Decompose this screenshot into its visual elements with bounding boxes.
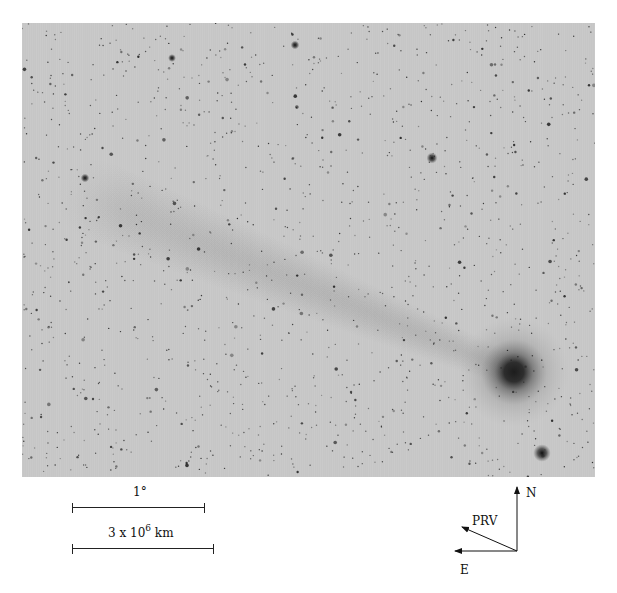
compass-prv-label: PRV: [472, 514, 497, 528]
scale-bar-tick-right: [204, 503, 205, 513]
distance-scale-prefix: 3 x 10: [108, 526, 145, 540]
angular-scale-bar: [72, 503, 205, 513]
compass-arrows-icon: [440, 480, 560, 590]
distance-scale-bar: [72, 544, 214, 554]
distance-scale-label: 3 x 106 km: [108, 526, 174, 540]
scale-bar-line: [72, 507, 205, 508]
scale-bar-tick-left: [72, 503, 73, 513]
orientation-compass: N E PRV: [440, 480, 560, 590]
scale-bar-tick-left: [72, 544, 73, 554]
angular-scale-label: 1°: [133, 485, 147, 499]
distance-scale-suffix: km: [151, 526, 173, 540]
compass-east-label: E: [460, 563, 469, 577]
compass-north-label: N: [526, 486, 537, 500]
star-field: [22, 23, 595, 477]
scale-bar-tick-right: [213, 544, 214, 554]
distance-scale-exponent: 6: [145, 523, 151, 533]
scale-bar-line: [72, 548, 214, 549]
comet-photographic-plate: [22, 23, 595, 477]
